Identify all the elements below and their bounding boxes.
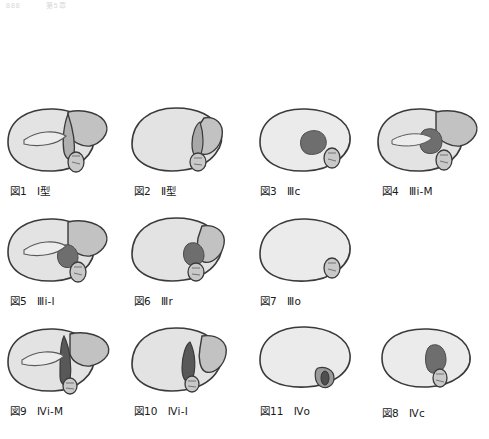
illustration-7: [252, 206, 374, 292]
figure-number-9: 図9: [10, 405, 27, 417]
organ-body: [260, 327, 350, 387]
gallbladder: [70, 262, 86, 282]
figure-type-11: Ⅳo: [294, 405, 311, 417]
gallbladder: [433, 369, 447, 387]
lesion-region: [301, 131, 327, 155]
figure-panel-5: 図5 Ⅲi-I: [2, 206, 124, 308]
figure-panel-8: 図8 Ⅳc: [374, 318, 489, 420]
figure-panel-1: 図1 Ⅰ型: [2, 96, 124, 198]
illustration-1: [2, 96, 124, 182]
figure-number-7: 図7: [260, 295, 277, 307]
illustration-8: [374, 318, 489, 404]
page-number: 888: [6, 2, 21, 9]
illustration-4: [374, 96, 489, 182]
figure-number-6: 図6: [134, 295, 151, 307]
figure-number-5: 図5: [10, 295, 27, 307]
figure-caption-7: 図7 Ⅲo: [252, 293, 374, 308]
figure-number-11: 図11: [260, 405, 283, 417]
gallbladder: [63, 378, 77, 394]
figure-type-7: Ⅲo: [287, 295, 301, 307]
gallbladder: [188, 263, 204, 281]
illustration-10: [126, 316, 248, 402]
figure-number-1: 図1: [10, 185, 27, 197]
figure-caption-8: 図8 Ⅳc: [374, 405, 489, 420]
lesion-region: [426, 345, 447, 373]
figure-caption-10: 図10 Ⅳi-I: [126, 403, 248, 418]
illustration-2: [126, 96, 248, 182]
figure-type-1: Ⅰ型: [37, 185, 51, 197]
figure-caption-5: 図5 Ⅲi-I: [2, 293, 124, 308]
running-title: 第5章: [46, 2, 67, 9]
figure-type-2: Ⅱ型: [161, 185, 177, 197]
figure-panel-4: 図4 Ⅲi-M: [374, 96, 489, 198]
gallbladder: [324, 148, 340, 168]
figure-number-3: 図3: [260, 185, 277, 197]
figure-panel-2: 図2 Ⅱ型: [126, 96, 248, 198]
figure-type-3: Ⅲc: [287, 185, 300, 197]
figure-panel-11: 図11 Ⅳo: [252, 316, 374, 418]
figure-caption-6: 図6 Ⅲr: [126, 293, 248, 308]
gallbladder: [190, 153, 206, 171]
lesion-region: [184, 243, 205, 266]
illustration-11: [252, 316, 374, 402]
figure-caption-11: 図11 Ⅳo: [252, 403, 374, 418]
figure-panel-6: 図6 Ⅲr: [126, 206, 248, 308]
figure-panel-9: 図9 Ⅳi-M: [2, 316, 124, 418]
gallbladder: [436, 150, 452, 170]
page-header: 888 第5章: [6, 0, 67, 10]
figure-type-10: Ⅳi-I: [168, 405, 188, 417]
figure-type-5: Ⅲi-I: [37, 295, 55, 307]
organ-lobe: [199, 336, 226, 373]
lesion-region: [321, 371, 329, 385]
gallbladder: [324, 258, 340, 278]
figure-caption-1: 図1 Ⅰ型: [2, 183, 124, 198]
figure-caption-3: 図3 Ⅲc: [252, 183, 374, 198]
gallbladder: [68, 152, 84, 172]
figure-type-4: Ⅲi-M: [409, 185, 433, 197]
figure-number-10: 図10: [134, 405, 157, 417]
figure-panel-10: 図10 Ⅳi-I: [126, 316, 248, 418]
figure-panel-7: 図7 Ⅲo: [252, 206, 374, 308]
figure-number-4: 図4: [382, 185, 399, 197]
figure-type-9: Ⅳi-M: [37, 405, 63, 417]
figure-number-8: 図8: [382, 407, 399, 419]
illustration-6: [126, 206, 248, 292]
illustration-9: [2, 316, 124, 402]
figure-type-8: Ⅳc: [409, 407, 425, 419]
figure-caption-9: 図9 Ⅳi-M: [2, 403, 124, 418]
gallbladder: [185, 376, 199, 392]
illustration-5: [2, 206, 124, 292]
figure-caption-4: 図4 Ⅲi-M: [374, 183, 489, 198]
figure-caption-2: 図2 Ⅱ型: [126, 183, 248, 198]
organ-lobe: [70, 333, 109, 366]
illustration-3: [252, 96, 374, 182]
figure-number-2: 図2: [134, 185, 151, 197]
figure-type-6: Ⅲr: [161, 295, 173, 307]
figure-panel-3: 図3 Ⅲc: [252, 96, 374, 198]
